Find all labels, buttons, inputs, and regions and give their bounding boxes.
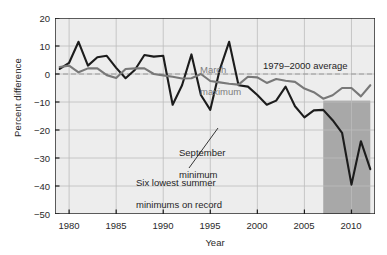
x-tick-label: 2000 [237,220,277,231]
six-lowest-annotation: Six lowest summer minimums on record [136,166,222,210]
y-tick-label: 0 [20,69,50,80]
x-tick-label: 1980 [49,220,89,231]
x-tick-label: 2005 [284,220,324,231]
average-annotation: 1979–2000 average [263,60,348,71]
march-maximum-line2: maximum [200,86,241,97]
y-tick-label: −10 [20,97,50,108]
chart-figure: Percent difference 20 10 0 −10 −20 −30 −… [0,0,387,255]
x-tick-label: 1990 [143,220,183,231]
march-maximum-line1: March [200,64,226,75]
y-tick-label: −20 [20,125,50,136]
six-lowest-line1: Six lowest summer [136,177,216,188]
x-tick-label: 1985 [96,220,136,231]
y-tick-label: 10 [20,41,50,52]
y-tick-label: −30 [20,153,50,164]
x-tick-label: 2010 [331,220,371,231]
y-tick-label: 20 [20,13,50,24]
six-lowest-line2: minimums on record [136,199,222,210]
y-tick-label: −50 [20,209,50,220]
x-axis-title: Year [55,237,375,248]
march-maximum-annotation: March maximum [200,53,241,97]
september-minimum-line1: September [179,147,225,158]
y-tick-label: −40 [20,181,50,192]
x-tick-label: 1995 [190,220,230,231]
